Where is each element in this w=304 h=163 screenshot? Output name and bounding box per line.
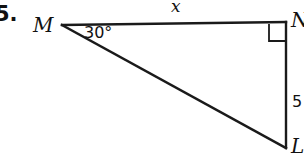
vertex-label-M: M [33,15,53,35]
right-angle-marker-icon [269,24,286,41]
side-label-5: 5 [292,94,302,110]
vertex-label-L: L [291,136,304,156]
vertex-label-N: N [291,10,304,30]
angle-label-30-degrees: 30° [84,25,112,41]
side-label-x: x [171,0,181,15]
side-ML-line [62,25,286,148]
geometry-problem-figure: 5. M N L x 5 30° [0,0,304,163]
